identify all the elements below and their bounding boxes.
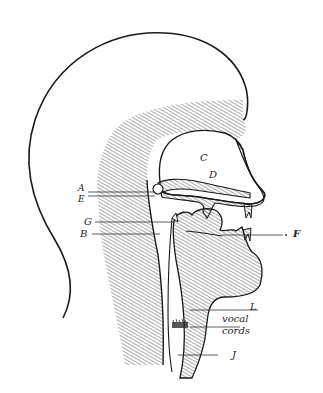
upper-lip-teeth [244, 204, 252, 218]
leader-dot-f [285, 234, 287, 236]
label-j: J [232, 350, 236, 360]
label-l: L [250, 302, 257, 312]
label-vocal: vocal [222, 314, 248, 324]
label-cords: cords [222, 326, 250, 336]
label-c: C [200, 153, 208, 163]
label-d: D [209, 170, 217, 180]
vocal-tract-diagram [0, 0, 323, 393]
label-f: F [293, 229, 300, 239]
larynx-line [168, 218, 172, 372]
label-g: G [84, 217, 92, 227]
label-a: A [78, 184, 85, 193]
uvula [153, 184, 163, 194]
label-b: B [80, 229, 87, 239]
label-e: E [78, 195, 85, 204]
